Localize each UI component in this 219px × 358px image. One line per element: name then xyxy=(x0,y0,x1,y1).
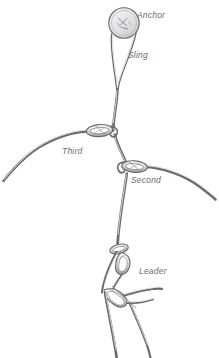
label-sling: Sling xyxy=(128,51,148,60)
diagram-canvas xyxy=(0,0,219,358)
third-junction xyxy=(4,124,118,181)
carabiner-icon xyxy=(86,124,113,138)
label-anchor: Anchor xyxy=(137,11,165,20)
label-second: Second xyxy=(131,176,161,185)
label-leader: Leader xyxy=(139,267,167,276)
carabiner-icon xyxy=(109,242,130,256)
sling-loop-icon xyxy=(111,32,136,90)
climbing-anchor-diagram: Anchor Sling Third Second Leader xyxy=(0,0,219,358)
carabiner-icon xyxy=(116,253,131,275)
label-third: Third xyxy=(62,147,82,156)
